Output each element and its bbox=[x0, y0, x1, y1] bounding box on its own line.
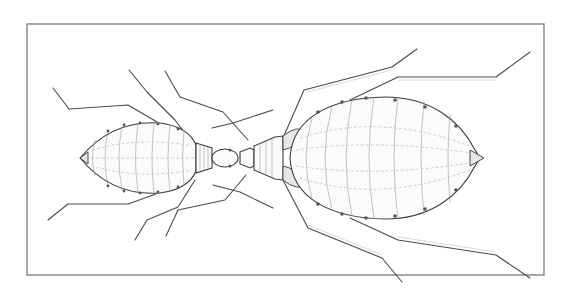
small-insect-head bbox=[212, 149, 238, 167]
large-insect-abdomen bbox=[290, 97, 480, 219]
small-insect bbox=[80, 122, 238, 195]
large-insect-head bbox=[240, 148, 254, 168]
insect-illustration bbox=[0, 0, 573, 290]
large-insect-thorax bbox=[254, 136, 283, 180]
large-insect bbox=[240, 96, 484, 220]
illustration-canvas bbox=[0, 0, 573, 290]
